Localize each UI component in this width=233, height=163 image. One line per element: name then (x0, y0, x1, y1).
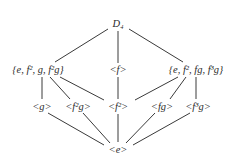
node-d4: D₄ (112, 18, 123, 30)
edge-g-e (48, 113, 104, 145)
edge-f2g-e (83, 113, 110, 143)
node-cyclic-g: <g> (32, 101, 51, 113)
node-trivial-e: <e> (109, 144, 128, 156)
node-subgroup-e-f2-g-f2g: {e, f², g, f²g} (12, 64, 63, 76)
node-cyclic-f: <f> (109, 64, 126, 76)
edge-h1-f2 (60, 77, 104, 100)
edge-d4-h2 (129, 29, 183, 62)
edge-d4-h1 (55, 29, 108, 62)
node-cyclic-f2g: <f²g> (65, 101, 91, 113)
node-subgroup-e-f2-fg-f3g: {e, f², fg, f³g} (169, 64, 223, 76)
node-cyclic-f2: <f²> (108, 101, 128, 113)
edge-f3g-e (133, 113, 190, 145)
node-cyclic-fg: <fg> (151, 101, 173, 113)
node-cyclic-f3g: <f³g> (185, 101, 211, 113)
edge-fg-e (126, 113, 155, 143)
